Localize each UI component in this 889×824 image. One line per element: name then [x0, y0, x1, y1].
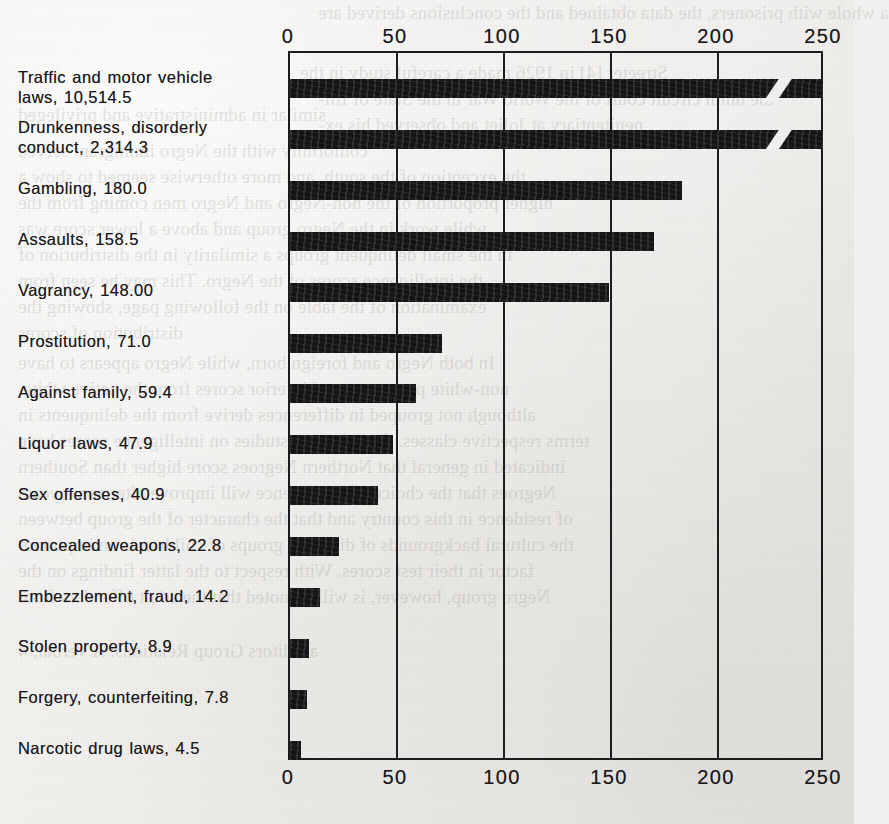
bar — [290, 181, 682, 200]
axis-tick-label: 0 — [258, 766, 318, 789]
category-label-line: laws, 10,514.5 — [18, 87, 280, 107]
category-label-line: Traffic and motor vehicle — [18, 67, 280, 87]
category-label: Liquor laws, 47.9 — [18, 433, 280, 453]
plot-area — [288, 51, 823, 760]
axis-tick-label: 100 — [472, 25, 532, 48]
gridline — [610, 53, 612, 758]
axis-tick-label: 250 — [793, 766, 853, 789]
axis-tick-label: 150 — [579, 766, 639, 789]
bar — [290, 639, 309, 658]
category-label: Concealed weapons, 22.8 — [18, 535, 280, 555]
axis-tick-label: 150 — [579, 25, 639, 48]
category-label: Sex offenses, 40.9 — [18, 484, 280, 504]
bar — [290, 130, 823, 149]
axis-tick-label: 50 — [365, 766, 425, 789]
category-label-column: Traffic and motor vehiclelaws, 10,514.5D… — [18, 0, 282, 824]
axis-tick-label: 200 — [686, 25, 746, 48]
category-label-line: conduct, 2,314.3 — [18, 137, 280, 157]
category-label: Assaults, 158.5 — [18, 229, 280, 249]
bar — [290, 537, 339, 556]
axis-break-mark — [763, 76, 794, 102]
axis-tick-label: 200 — [686, 766, 746, 789]
bar — [290, 588, 320, 607]
gridline — [503, 53, 505, 758]
gridline — [396, 53, 398, 758]
category-label: Against family, 59.4 — [18, 382, 280, 402]
bar — [290, 690, 307, 709]
category-label: Prostitution, 71.0 — [18, 331, 280, 351]
category-label: Narcotic drug laws, 4.5 — [18, 738, 280, 758]
axis-tick-label: 100 — [472, 766, 532, 789]
category-label: Forgery, counterfeiting, 7.8 — [18, 687, 280, 707]
bar — [290, 232, 654, 251]
bar — [290, 741, 301, 760]
axis-tick-label: 0 — [258, 25, 318, 48]
category-label-line: Drunkenness, disorderly — [18, 117, 280, 137]
category-label: Drunkenness, disorderlyconduct, 2,314.3 — [18, 117, 280, 157]
bar — [290, 283, 609, 302]
category-label: Stolen property, 8.9 — [18, 636, 280, 656]
bar — [290, 79, 823, 98]
category-label: Embezzlement, fraud, 14.2 — [18, 586, 280, 606]
axis-tick-label: 250 — [793, 25, 853, 48]
bar — [290, 334, 442, 353]
category-label: Gambling, 180.0 — [18, 178, 280, 198]
axis-break-mark — [763, 127, 794, 153]
gridline — [717, 53, 719, 758]
bar — [290, 486, 378, 505]
category-label: Vagrancy, 148.00 — [18, 280, 280, 300]
category-label: Traffic and motor vehiclelaws, 10,514.5 — [18, 67, 280, 107]
bar — [290, 384, 416, 403]
axis-tick-label: 50 — [365, 25, 425, 48]
bar — [290, 435, 393, 454]
